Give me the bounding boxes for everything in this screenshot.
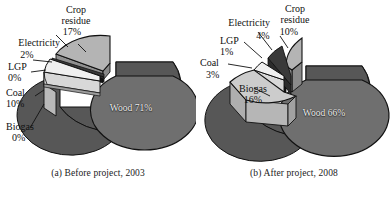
slice-label-wood-name: Wood — [110, 103, 132, 113]
slice-label-crop-residue-line2: residue — [62, 15, 91, 26]
slice-label-biogas-name: Biogas — [6, 121, 34, 132]
caption-after-project: (b) After project, 2008 — [196, 168, 392, 178]
figure-two-pie-charts: Wood 71% Crop residue 17% Electricity 2%… — [0, 0, 392, 206]
slice-label-wood-pct: 71% — [135, 103, 152, 113]
slice-label-biogas-name: Biogas — [239, 83, 267, 94]
pie-chart-after: Wood 66% Biogas 16% Crop residue 10% Ele… — [196, 0, 392, 168]
slice-label-coal-name: Coal — [200, 57, 219, 68]
slice-label-coal: Coal — [6, 88, 38, 99]
slice-label-lgp-name: LGP — [8, 61, 27, 72]
slice-label-electricity-name: Electricity — [18, 37, 60, 48]
slice-label-lgp-name: LGP — [220, 35, 239, 46]
pie-chart-before: Wood 71% Crop residue 17% Electricity 2%… — [0, 0, 196, 168]
slice-label-lgp: LGP — [8, 62, 38, 73]
slice-label-wood: Wood 66% — [300, 108, 348, 119]
panel-after-project: Wood 66% Biogas 16% Crop residue 10% Ele… — [196, 0, 392, 206]
slice-label-crop-residue-line1: Crop — [66, 4, 86, 15]
slice-label-electricity-pct: 4% — [250, 31, 276, 42]
slice-label-coal: Coal — [200, 58, 232, 69]
slice-label-wood-name: Wood — [303, 108, 325, 118]
slice-label-crop-residue-line2: residue — [281, 14, 310, 25]
slice-label-crop-residue-pct: 10% — [274, 27, 304, 38]
slice-label-electricity-name: Electricity — [228, 17, 270, 28]
slice-label-electricity-pct: 2% — [14, 50, 40, 61]
slice-label-lgp-pct: 1% — [220, 47, 246, 58]
slice-label-coal-pct: 10% — [6, 99, 34, 110]
slice-label-crop-residue-pct: 17% — [57, 27, 87, 38]
slice-label-crop-residue-line1: Crop — [285, 3, 305, 14]
panel-before-project: Wood 71% Crop residue 17% Electricity 2%… — [0, 0, 196, 206]
slice-label-crop-residue: Crop residue — [268, 4, 322, 25]
slice-label-lgp-pct: 0% — [8, 73, 34, 84]
slice-label-wood: Wood 71% — [108, 103, 154, 114]
slice-label-crop-residue: Crop residue — [50, 5, 102, 26]
slice-label-biogas-pct: 0% — [12, 133, 40, 144]
slice-label-electricity: Electricity — [2, 38, 60, 49]
slice-label-biogas-pct: 16% — [226, 95, 280, 106]
slice-label-coal-name: Coal — [6, 87, 25, 98]
caption-before-project: (a) Before project, 2003 — [0, 168, 196, 178]
slice-label-biogas: Biogas 16% — [226, 84, 280, 105]
slice-label-biogas: Biogas — [6, 122, 46, 133]
slice-label-coal-pct: 3% — [206, 70, 234, 81]
slice-label-wood-pct: 66% — [328, 108, 345, 118]
slice-label-lgp: LGP — [220, 36, 250, 47]
slice-label-electricity: Electricity — [210, 18, 270, 29]
